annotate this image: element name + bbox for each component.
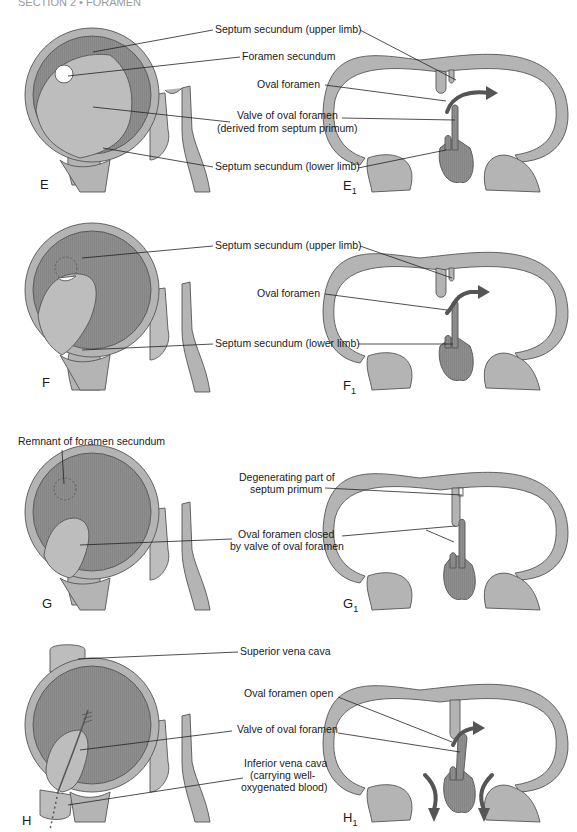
panel-f1-right-drawing (323, 252, 568, 390)
label-valve-of-oval-foramen-sub: (derived from septum primum) (217, 122, 358, 134)
label-valve-of-oval-foramen: Valve of oval foramen (237, 723, 338, 735)
arrowhead-icon (478, 285, 490, 299)
inferior-vena-cava (40, 790, 72, 820)
panel-g1-right-drawing (323, 472, 568, 610)
blood-flow-arrow (425, 775, 436, 810)
label-septum-secundum-lower: Septum secundum (lower limb) (215, 160, 360, 172)
panel-e1-label: E1 (343, 178, 357, 196)
panel-h-label: H (22, 813, 31, 828)
panel-f-left-drawing (25, 223, 210, 392)
label-oval-foramen-open: Oval foramen open (244, 687, 333, 699)
panel-f1-label: F1 (343, 378, 356, 396)
label-oval-foramen: Oval foramen (257, 78, 320, 90)
label-septum-secundum-lower: Septum secundum (lower limb) (215, 337, 360, 349)
label-remnant-foramen-secundum: Remnant of foramen secundum (18, 435, 165, 447)
label-septum-secundum-upper: Septum secundum (upper limb) (215, 23, 361, 35)
label-septum-secundum-upper: Septum secundum (upper limb) (215, 239, 361, 251)
panel-g-left-drawing (25, 445, 210, 610)
arrowhead-icon (486, 86, 498, 100)
panel-h1-right-drawing (323, 684, 568, 822)
arrowhead-icon (473, 721, 485, 735)
label-oval-foramen-closed: Oval foramen closed (238, 528, 334, 540)
label-superior-vena-cava: Superior vena cava (240, 645, 331, 657)
label-inferior-vena-cava-sub2: oxygenated blood) (241, 781, 327, 793)
panel-e-label: E (40, 177, 49, 192)
label-degenerating-septum-primum-sub: septum primum (250, 483, 323, 495)
foramen-secundum-hole (55, 65, 73, 83)
label-oval-foramen: Oval foramen (257, 287, 320, 299)
arrowhead-icon (428, 808, 440, 822)
label-oval-foramen-closed-sub: by valve of oval foramen (230, 540, 344, 552)
panel-h1-label: H1 (343, 810, 357, 828)
heart-septation-diagram: SECTION 2 • FORAMEN E E1 Septum secundum… (0, 0, 577, 832)
valve-of-oval-foramen (452, 105, 458, 150)
label-foramen-secundum: Foramen secundum (242, 50, 336, 62)
label-valve-of-oval-foramen: Valve of oval foramen (237, 109, 338, 121)
panel-f-label: F (42, 375, 50, 390)
page-header: SECTION 2 • FORAMEN (18, 0, 141, 8)
label-inferior-vena-cava-sub1: (carrying well- (250, 769, 316, 781)
panel-g1-label: G1 (343, 596, 358, 614)
label-degenerating-septum-primum: Degenerating part of (239, 471, 335, 483)
panel-g-label: G (42, 596, 52, 611)
label-inferior-vena-cava: Inferior vena cava (244, 757, 328, 769)
